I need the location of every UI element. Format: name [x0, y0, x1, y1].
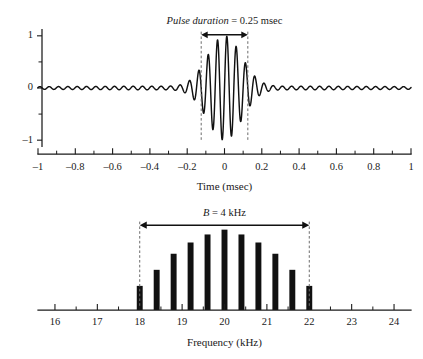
- spectrum-bar: [171, 254, 177, 310]
- bandwidth-arrow-head-left: [140, 222, 147, 229]
- waveform-x-tick-label: 0.2: [255, 161, 268, 172]
- pulse-duration-label-italic: Pulse duration: [166, 15, 229, 26]
- spectrum-x-tick-label: 17: [92, 316, 103, 327]
- bandwidth-label: B = 4 kHz: [203, 208, 246, 219]
- spectrum-x-tick-label: 16: [50, 316, 61, 327]
- spectrum-bar: [205, 234, 211, 310]
- spectrum-x-tick-label: 18: [134, 316, 145, 327]
- waveform-trace: [38, 36, 411, 139]
- pulse-duration-label-rest: = 0.25 msec: [229, 15, 283, 26]
- spectrum-chart: 161718192021222324B = 4 kHzFrequency (kH…: [0, 198, 423, 359]
- spectrum-bar: [154, 270, 160, 310]
- spectrum-bar: [289, 270, 295, 310]
- waveform-x-tick-label: 1: [408, 161, 413, 172]
- spectrum-x-tick-label: 21: [262, 316, 273, 327]
- figure-root: –101–1–0.8–0.6–0.4–0.200.20.40.60.81Puls…: [0, 0, 423, 359]
- spectrum-panel: 161718192021222324B = 4 kHzFrequency (kH…: [0, 198, 423, 359]
- spectrum-x-tick-label: 24: [389, 316, 400, 327]
- waveform-x-tick-label: –0.4: [140, 161, 160, 172]
- waveform-x-tick-label: 0.4: [293, 161, 307, 172]
- spectrum-bar: [222, 230, 228, 310]
- waveform-x-tick-label: –1: [32, 161, 44, 172]
- waveform-x-tick-label: –0.8: [65, 161, 84, 172]
- pulse-duration-label: Pulse duration = 0.25 msec: [166, 15, 283, 26]
- spectrum-axis-title: Frequency (kHz): [187, 336, 262, 349]
- spectrum-bar: [272, 254, 278, 310]
- bandwidth-label-rest: = 4 kHz: [209, 208, 246, 219]
- waveform-x-tick-label: –0.6: [102, 161, 121, 172]
- pulse-arrow-head-left: [201, 31, 208, 38]
- spectrum-x-tick-label: 20: [219, 316, 230, 327]
- waveform-x-tick-label: –0.2: [177, 161, 196, 172]
- bandwidth-arrow-head-right: [302, 222, 309, 229]
- waveform-y-tick-label: –1: [22, 134, 34, 145]
- waveform-axis-title: Time (msec): [197, 180, 253, 193]
- waveform-y-tick-label: 1: [28, 29, 33, 40]
- waveform-x-tick-label: 0.6: [330, 161, 343, 172]
- waveform-panel: –101–1–0.8–0.6–0.4–0.200.20.40.60.81Puls…: [0, 0, 423, 198]
- waveform-x-tick-label: 0: [222, 161, 227, 172]
- waveform-x-tick-label: 0.8: [367, 161, 380, 172]
- waveform-y-tick-label: 0: [28, 81, 33, 92]
- pulse-arrow-head-right: [241, 31, 248, 38]
- waveform-chart: –101–1–0.8–0.6–0.4–0.200.20.40.60.81Puls…: [0, 0, 423, 198]
- spectrum-bar: [238, 234, 244, 310]
- spectrum-bar: [188, 243, 194, 311]
- spectrum-x-tick-label: 22: [304, 316, 315, 327]
- spectrum-x-tick-label: 19: [177, 316, 188, 327]
- spectrum-bar: [255, 243, 261, 311]
- spectrum-x-tick-label: 23: [346, 316, 357, 327]
